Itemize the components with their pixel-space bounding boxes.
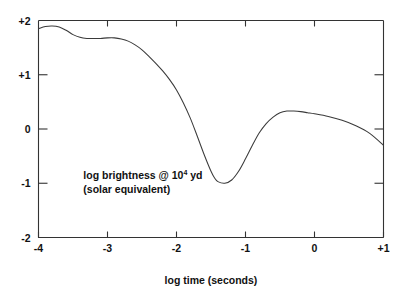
x-axis-title: log time (seconds) (165, 274, 258, 286)
x-tick-label: 0 (312, 242, 318, 254)
y-tick-label: -2 (21, 232, 30, 244)
curve-annotation: log brightness @ 104 yd(solar equivalent… (83, 169, 202, 195)
annotation-line-2: (solar equivalent) (83, 183, 170, 195)
x-tick-label: -1 (241, 242, 250, 254)
x-tick-label: -3 (103, 242, 112, 254)
x-axis-tick-labels: -4-3-2-10+1 (34, 242, 390, 254)
data-curve-group (39, 26, 384, 183)
chart-svg: -4-3-2-10+1 -2-10+1+2 log brightness @ 1… (0, 0, 404, 296)
y-axis-ticks (39, 75, 384, 184)
chart-figure: -4-3-2-10+1 -2-10+1+2 log brightness @ 1… (0, 0, 404, 296)
y-tick-label: +2 (19, 15, 31, 27)
y-tick-label: +1 (19, 69, 31, 81)
axis-spine-left-bottom (39, 21, 384, 238)
y-axis-tick-labels: -2-10+1+2 (19, 15, 31, 244)
y-tick-label: -1 (21, 177, 30, 189)
x-tick-label: -2 (172, 242, 181, 254)
brightness-curve (39, 26, 384, 183)
x-tick-label: -4 (34, 242, 43, 254)
plot-frame (39, 21, 384, 238)
x-tick-label: +1 (378, 242, 390, 254)
y-tick-label: 0 (25, 123, 31, 135)
x-axis-ticks (39, 21, 384, 238)
annotation-line-1: log brightness @ 104 yd (83, 169, 202, 181)
